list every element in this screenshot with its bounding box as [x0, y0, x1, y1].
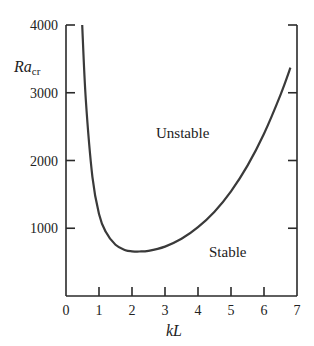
- y-tick-label: 2000: [30, 154, 58, 169]
- unstable-region-label: Unstable: [156, 125, 210, 141]
- x-tick-label: 3: [162, 303, 169, 318]
- y-tick-label: 4000: [30, 18, 58, 33]
- x-tick-label: 6: [261, 303, 268, 318]
- stable-region-label: Stable: [209, 244, 247, 260]
- x-tick-label: 0: [63, 303, 70, 318]
- y-tick-label: 1000: [30, 221, 58, 236]
- x-axis-label: kL: [166, 322, 182, 339]
- ticks: [66, 93, 297, 296]
- x-tick-label: 4: [195, 303, 202, 318]
- chart: 012345671000200030004000 Racr kL Unstabl…: [0, 0, 314, 346]
- axes: [66, 25, 297, 296]
- y-axis-label: Racr: [13, 58, 41, 77]
- x-tick-label: 1: [96, 303, 103, 318]
- y-tick-label: 3000: [30, 86, 58, 101]
- tick-labels: 012345671000200030004000: [30, 18, 301, 318]
- x-tick-label: 2: [129, 303, 136, 318]
- x-tick-label: 5: [228, 303, 235, 318]
- x-tick-label: 7: [294, 303, 301, 318]
